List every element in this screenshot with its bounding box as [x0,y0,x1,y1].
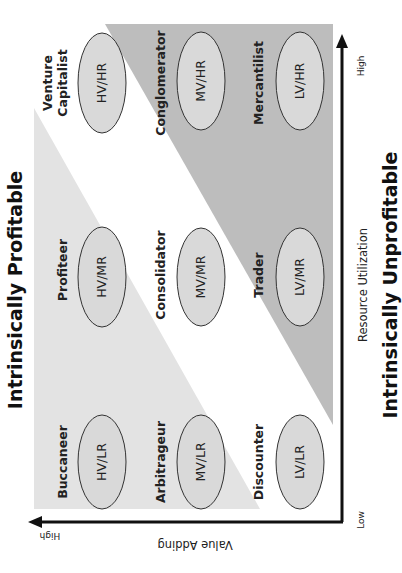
role-label-line2: Capitalist [55,49,70,116]
role-label: Profiteer [55,238,70,301]
code-label: MV/MR [193,255,208,298]
code-label: LV/MR [292,258,307,296]
value-high-label: High [40,531,61,541]
cell-mv-mr: Consolidator MV/MR [153,228,225,326]
code-label: HV/LR [94,443,109,481]
code-label: LV/HR [292,62,307,99]
code-label: MV/LR [193,442,208,482]
resource-utilization-label: Resource Utilization [356,228,370,342]
value-resource-matrix: Intrinsically Profitable Intrinsically U… [0,0,402,573]
code-label: LV/LR [292,445,307,479]
cell-lv-lr: Discounter LV/LR [251,415,324,509]
code-label: HV/HR [94,63,109,104]
cell-lv-hr: Mercantilist LV/HR [251,32,324,130]
role-label: Venture [40,55,55,111]
resource-low-label: Low [356,511,366,529]
role-label: Arbitrageur [153,420,168,503]
resource-high-label: High [356,56,366,77]
cell-hv-hr: Venture Capitalist HV/HR [40,33,126,133]
axis-arrow-left-icon [28,516,42,528]
code-label: MV/HR [193,60,208,102]
title-intrinsically-unprofitable: Intrinsically Unprofitable [379,152,401,419]
axis-arrow-up-icon [336,34,348,48]
cell-mv-hr: Conglomerator MV/HR [153,30,225,136]
code-label: HV/MR [94,256,109,298]
role-label: Trader [251,251,266,297]
role-label: Consolidator [153,229,168,319]
role-label: Discounter [251,423,266,500]
role-label: Mercantilist [251,41,266,125]
cell-mv-lr: Arbitrageur MV/LR [153,415,225,509]
role-label: Buccaneer [55,424,70,499]
value-adding-label: Value Adding [157,538,232,552]
cell-hv-lr: Buccaneer HV/LR [55,415,126,509]
role-label: Conglomerator [153,30,168,136]
title-intrinsically-profitable: Intrinsically Profitable [4,171,26,409]
